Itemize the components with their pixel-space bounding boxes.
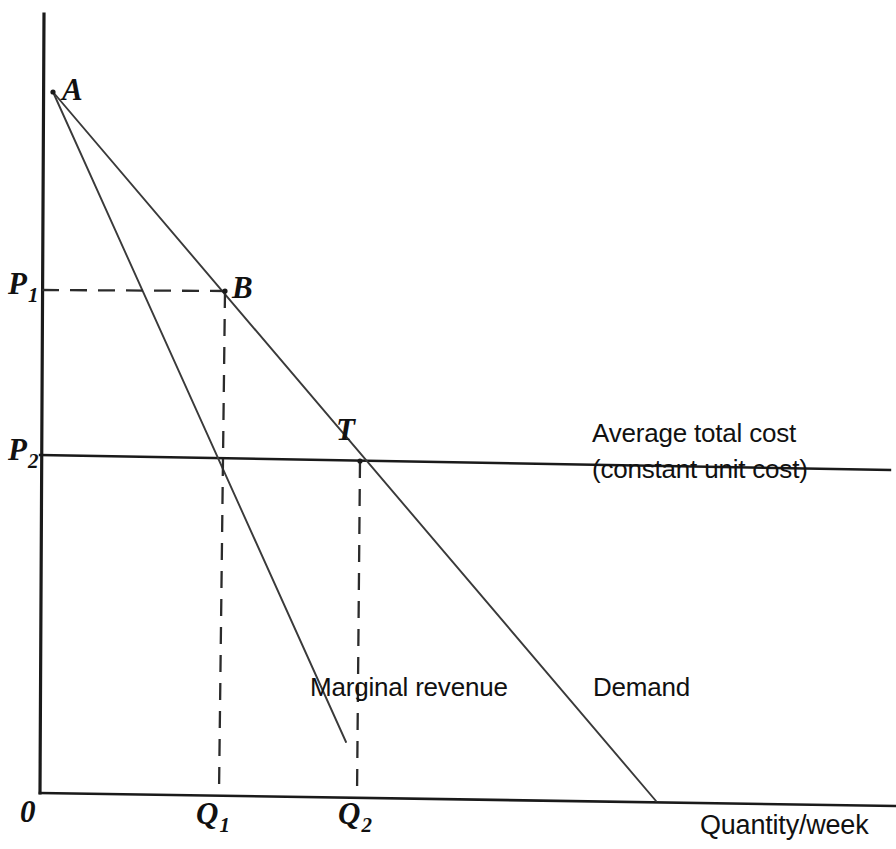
- average-total-cost-label-line-2: (constant unit cost): [592, 456, 808, 482]
- price-2-subscript: 2: [28, 449, 39, 473]
- demand-label: Demand: [593, 674, 690, 700]
- figure-container: A B T P1 P2 Q1 Q2 0 Average total cost (…: [0, 0, 896, 849]
- point-label-t: T: [336, 414, 355, 445]
- y-tick-label-price-2: P2: [8, 434, 37, 465]
- point-label-b: B: [232, 272, 253, 303]
- x-axis-label: Quantity/week: [700, 812, 868, 839]
- origin-label: 0: [20, 796, 36, 827]
- point-marker-a: [50, 89, 55, 94]
- y-tick-label-price-1: P1: [8, 268, 37, 299]
- x-tick-label-quantity-1: Q1: [196, 798, 229, 829]
- y-axis: [40, 14, 44, 793]
- quantity-1-subscript: 1: [219, 813, 230, 837]
- price-1-guide-line: [42, 290, 226, 291]
- point-marker-t: [357, 458, 362, 463]
- marginal-revenue-label: Marginal revenue: [310, 674, 508, 700]
- price-1-base: P: [8, 266, 27, 301]
- quantity-2-subscript: 2: [361, 813, 372, 837]
- quantity-2-base: Q: [338, 796, 360, 831]
- point-label-a: A: [62, 74, 83, 105]
- marginal-revenue-curve: [53, 92, 346, 742]
- price-1-subscript: 1: [28, 283, 39, 307]
- quantity-2-guide-line: [357, 461, 360, 797]
- x-tick-label-quantity-2: Q2: [338, 798, 371, 829]
- quantity-1-guide-line: [219, 291, 225, 793]
- x-axis: [40, 793, 896, 806]
- point-marker-b: [222, 288, 227, 293]
- average-total-cost-label-line-1: Average total cost: [592, 420, 796, 446]
- quantity-1-base: Q: [196, 796, 218, 831]
- price-2-base: P: [8, 432, 27, 467]
